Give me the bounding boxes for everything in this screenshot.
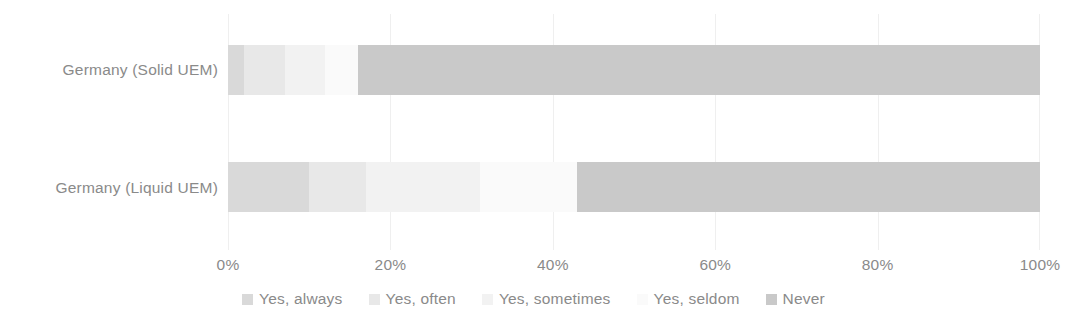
bar-row <box>228 45 1040 95</box>
bar-segment <box>366 162 480 212</box>
legend-item[interactable]: Never <box>766 290 825 308</box>
bar-segment <box>285 45 326 95</box>
legend-item[interactable]: Yes, often <box>369 290 456 308</box>
legend-label: Yes, sometimes <box>499 290 611 308</box>
value-axis-tick-label: 80% <box>862 256 894 274</box>
bar-segment <box>228 162 309 212</box>
legend-swatch-icon <box>766 294 777 305</box>
legend-swatch-icon <box>369 294 380 305</box>
value-axis-tick-label: 0% <box>217 256 240 274</box>
chart-legend: Yes, alwaysYes, oftenYes, sometimesYes, … <box>0 288 1067 310</box>
legend-item[interactable]: Yes, always <box>242 290 342 308</box>
category-label-germany-liquid-uem: Germany (Liquid UEM) <box>22 179 218 197</box>
value-axis-tick-label: 40% <box>537 256 569 274</box>
value-axis-tick-label: 100% <box>1020 256 1060 274</box>
legend-label: Yes, often <box>386 290 456 308</box>
bar-row <box>228 162 1040 212</box>
legend-swatch-icon <box>482 294 493 305</box>
value-axis-tick-label: 60% <box>699 256 731 274</box>
bar-segment <box>228 45 244 95</box>
bar-segment <box>358 45 1040 95</box>
bar-segment <box>244 45 285 95</box>
bar-segment <box>309 162 366 212</box>
bar-segment <box>577 162 1040 212</box>
legend-label: Yes, seldom <box>654 290 740 308</box>
bar-segment <box>480 162 577 212</box>
plot-area <box>228 14 1040 250</box>
legend-swatch-icon <box>637 294 648 305</box>
legend-item[interactable]: Yes, seldom <box>637 290 740 308</box>
stacked-bar-chart: Germany (Solid UEM) Germany (Liquid UEM)… <box>0 0 1067 313</box>
value-axis: 0%20%40%60%80%100% <box>228 256 1040 278</box>
bar-segment <box>325 45 357 95</box>
legend-swatch-icon <box>242 294 253 305</box>
legend-item[interactable]: Yes, sometimes <box>482 290 611 308</box>
category-label-germany-solid-uem: Germany (Solid UEM) <box>22 61 218 79</box>
legend-label: Yes, always <box>259 290 342 308</box>
value-axis-tick-label: 20% <box>375 256 407 274</box>
legend-label: Never <box>783 290 825 308</box>
